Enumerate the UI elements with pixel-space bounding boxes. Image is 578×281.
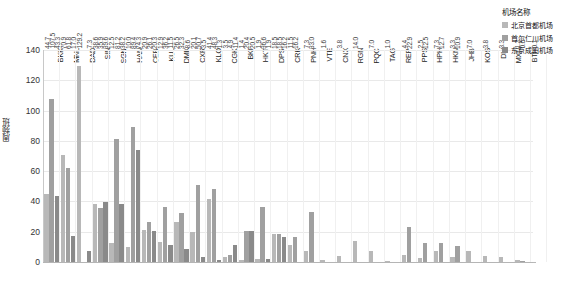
- bar[interactable]: 12.5: [423, 243, 427, 262]
- bar[interactable]: 16.2: [293, 237, 297, 262]
- bar[interactable]: 8.6: [184, 249, 188, 262]
- bar[interactable]: 48.3: [212, 189, 216, 262]
- bar-wrapper: 1.9: [266, 50, 270, 262]
- bar-wrapper: 12.5: [423, 50, 427, 262]
- bar-group: 1.420.420.5: [239, 50, 255, 262]
- bar[interactable]: 38.2: [119, 204, 123, 262]
- bar[interactable]: 20.4: [244, 231, 248, 262]
- bar[interactable]: 10.9: [455, 246, 459, 263]
- bar-group: 7.0: [466, 50, 482, 262]
- bar-wrapper: [379, 50, 383, 262]
- bar[interactable]: 70.9: [61, 155, 65, 262]
- bar-group: 3.8: [336, 50, 352, 262]
- bar-wrapper: 7.3: [87, 50, 91, 262]
- bar[interactable]: 36.6: [260, 207, 264, 262]
- bar[interactable]: 7.0: [369, 251, 373, 262]
- bar[interactable]: 4.9: [228, 255, 232, 262]
- bar[interactable]: 107.5: [49, 99, 53, 262]
- bar-group: 3.310.9: [450, 50, 466, 262]
- y-tick-label: 80: [14, 136, 40, 146]
- bar[interactable]: 7.3: [304, 251, 308, 262]
- legend-item[interactable]: 东京成田机场: [502, 45, 574, 55]
- bar[interactable]: 17.0: [71, 236, 75, 262]
- legend-label: 首尔仁川机场: [511, 33, 553, 43]
- bar[interactable]: 36.2: [163, 207, 167, 262]
- bar[interactable]: 4.4: [402, 255, 406, 262]
- bar[interactable]: 22.9: [407, 227, 411, 262]
- y-tick-label: 40: [14, 196, 40, 206]
- bar-group: 7.333.0: [304, 50, 320, 262]
- bar-wrapper: 4.9: [228, 50, 232, 262]
- bar[interactable]: 39.6: [103, 202, 107, 262]
- legend-item[interactable]: 首尔仁川机场: [502, 33, 574, 43]
- bar[interactable]: 11.5: [168, 245, 172, 262]
- bar[interactable]: 38.6: [93, 204, 97, 262]
- bar[interactable]: 18.5: [272, 234, 276, 262]
- bar-wrapper: 7.0: [466, 50, 470, 262]
- bar-wrapper: [363, 50, 367, 262]
- bar[interactable]: 20.1: [190, 232, 194, 262]
- bar[interactable]: 12.7: [439, 243, 443, 262]
- bar[interactable]: 35.9: [98, 208, 102, 262]
- bar[interactable]: 7.3: [87, 251, 91, 262]
- bar[interactable]: 33.0: [309, 212, 313, 262]
- legend-item[interactable]: 北京首都机场: [502, 20, 574, 30]
- bar[interactable]: 20.3: [152, 231, 156, 262]
- bar[interactable]: 14.0: [353, 241, 357, 262]
- bar-wrapper: [412, 50, 416, 262]
- bar[interactable]: 129.2: [77, 66, 81, 262]
- bar-group: 44.7107.543.3: [44, 50, 60, 262]
- bar-group: 7.312.7: [434, 50, 450, 262]
- bar[interactable]: 10.0: [126, 247, 130, 262]
- bar[interactable]: 74.3: [136, 150, 140, 263]
- bar[interactable]: 89.4: [131, 127, 135, 262]
- bar-wrapper: 1.9: [255, 50, 259, 262]
- bar[interactable]: 16.2: [282, 237, 286, 262]
- bar[interactable]: 20.5: [249, 231, 253, 262]
- bar-wrapper: 1.3: [217, 50, 221, 262]
- bar-wrapper: 12.7: [439, 50, 443, 262]
- bar-wrapper: [390, 50, 394, 262]
- bar[interactable]: 81.2: [114, 139, 118, 262]
- bar-value-label: 7.0: [465, 40, 472, 49]
- bar[interactable]: 7.3: [434, 251, 438, 262]
- bar-wrapper: 10.0: [126, 50, 130, 262]
- bar-wrapper: 1.2: [515, 50, 519, 262]
- legend-title: 机场名称: [502, 6, 574, 17]
- bar[interactable]: 61.8: [66, 168, 70, 262]
- legend-swatch: [502, 35, 508, 41]
- bar-wrapper: 1.6: [320, 50, 324, 262]
- bar-wrapper: 33.0: [309, 50, 313, 262]
- bar-wrapper: 39.6: [103, 50, 107, 262]
- bar-wrapper: 20.9: [142, 50, 146, 262]
- bar[interactable]: 50.7: [196, 185, 200, 262]
- bar[interactable]: 20.9: [142, 230, 146, 262]
- bar-wrapper: 48.3: [212, 50, 216, 262]
- bar[interactable]: 7.0: [466, 251, 470, 262]
- bar[interactable]: 12.5: [109, 243, 113, 262]
- bar-wrapper: 12.9: [158, 50, 162, 262]
- bar-value-label: 3.8: [335, 40, 342, 49]
- bar-wrapper: [82, 50, 86, 262]
- bar-wrapper: [509, 50, 513, 262]
- bar-group: 20.926.120.3: [141, 50, 157, 262]
- bar[interactable]: 44.7: [44, 194, 48, 262]
- bar[interactable]: 11.4: [233, 245, 237, 262]
- bar[interactable]: 11.5: [288, 245, 292, 262]
- bar-wrapper: 35.9: [98, 50, 102, 262]
- bar[interactable]: 26.5: [174, 222, 178, 262]
- bar-group: 20.150.73.5: [190, 50, 206, 262]
- bar[interactable]: 32.3: [179, 213, 183, 262]
- bar[interactable]: 26.1: [147, 222, 151, 262]
- bar-group: 41.448.31.3: [206, 50, 222, 262]
- bar-wrapper: 36.6: [260, 50, 264, 262]
- y-tick-label: 140: [14, 45, 40, 55]
- bar[interactable]: 41.4: [207, 199, 211, 262]
- bar-wrapper: 22.9: [407, 50, 411, 262]
- bar[interactable]: 12.9: [158, 242, 162, 262]
- bar-wrapper: [493, 50, 497, 262]
- bar[interactable]: 18.5: [277, 234, 281, 262]
- bar-wrapper: 20.1: [190, 50, 194, 262]
- plot-area: 44.7107.543.370.961.817.0129.27.338.635.…: [43, 50, 533, 262]
- bar[interactable]: 43.3: [55, 196, 59, 262]
